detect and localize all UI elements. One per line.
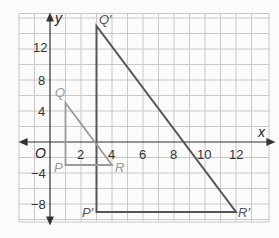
x-axis-label: x xyxy=(257,124,266,140)
y-axis-label: y xyxy=(54,10,63,26)
y-tick-neg4: −4 xyxy=(31,166,46,181)
y-tick-12: 12 xyxy=(33,40,47,55)
triangle-pqr xyxy=(66,103,113,165)
y-tick-4: 4 xyxy=(38,104,45,119)
x-axis-right-arrow-icon xyxy=(267,139,274,145)
y-tick-8: 8 xyxy=(38,73,45,88)
x-tick-10: 10 xyxy=(197,147,211,162)
vertex-label-p: P xyxy=(54,160,63,175)
x-tick-6: 6 xyxy=(139,147,146,162)
vertex-label-q: Q xyxy=(55,85,65,100)
x-axis-left-arrow-icon xyxy=(20,139,27,145)
vertex-label-q-prime: Q′ xyxy=(99,12,112,27)
x-tick-2: 2 xyxy=(77,147,84,162)
vertex-label-p-prime: P′ xyxy=(82,205,94,220)
y-axis-down-arrow-icon xyxy=(47,217,53,224)
origin-label: O xyxy=(35,145,46,161)
grid xyxy=(19,14,269,223)
triangle-pqr-prime xyxy=(97,26,237,212)
vertex-label-r-prime: R′ xyxy=(238,205,250,220)
y-tick-neg8: −8 xyxy=(31,197,46,212)
vertex-label-r: R xyxy=(115,160,124,175)
coordinate-plane: y x O 2 4 6 8 10 12 12 8 4 −4 −8 Q′ P′ R… xyxy=(0,0,279,238)
x-tick-8: 8 xyxy=(170,147,177,162)
x-tick-12: 12 xyxy=(229,147,243,162)
y-axis-up-arrow-icon xyxy=(47,14,53,21)
